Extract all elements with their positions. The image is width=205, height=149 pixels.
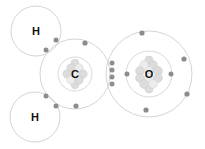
- hydrogen-top-label: H: [32, 25, 40, 37]
- electron-oxygen-outer: [139, 30, 144, 35]
- electron-bond-co-double: [110, 82, 115, 87]
- electron-oxygen-outer: [143, 107, 148, 112]
- carbon-label: C: [71, 68, 79, 80]
- molecule-diagram-canvas: H H C O: [0, 0, 205, 149]
- electron-carbon-outer: [82, 40, 87, 45]
- oxygen-label: O: [145, 68, 154, 80]
- electron-bond-co-double: [110, 61, 115, 66]
- electron-bond-co-double: [110, 68, 115, 73]
- electron-oxygen-inner: [125, 72, 130, 77]
- hydrogen-bottom-label: H: [31, 111, 39, 123]
- electron-oxygen-inner: [169, 72, 174, 77]
- electron-bond-co-double: [110, 75, 115, 80]
- electron-bond-ch-bottom: [54, 104, 59, 109]
- electron-oxygen-outer: [181, 56, 186, 61]
- electron-carbon-outer: [73, 103, 78, 108]
- electron-bond-ch-top: [44, 48, 49, 53]
- electron-bond-ch-top: [54, 38, 59, 43]
- electron-oxygen-outer: [184, 91, 189, 96]
- electron-bond-ch-bottom: [44, 94, 49, 99]
